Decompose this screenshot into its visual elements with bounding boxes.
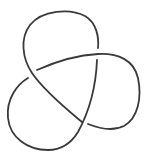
knot-diagram-canvas: Trefoil knot	[0, 0, 147, 161]
knot-strand-right-descent	[8, 60, 97, 150]
knot-strand-right-loop	[37, 54, 139, 129]
knot-strand-top-loop	[23, 11, 98, 122]
trefoil-knot	[0, 0, 147, 161]
